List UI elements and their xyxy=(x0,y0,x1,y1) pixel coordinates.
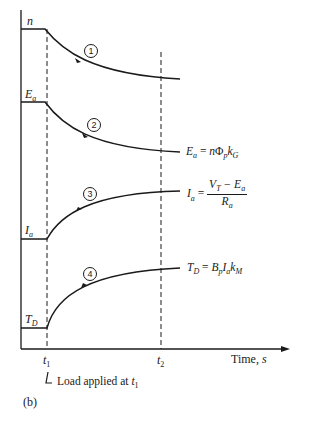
curve-n xyxy=(21,29,180,79)
label-ia: Ia xyxy=(25,224,33,239)
curve-ia xyxy=(21,191,180,239)
marker-3: 3 xyxy=(83,187,97,201)
equation-ea: Ea = nΦpkG xyxy=(186,146,238,160)
panel-label: (b) xyxy=(23,396,37,408)
tick-t1: t1 xyxy=(43,354,50,369)
x-axis-label: Time, s xyxy=(231,353,267,365)
label-n: n xyxy=(27,15,33,27)
marker-2: 2 xyxy=(87,118,101,132)
direction-arrow-icon xyxy=(75,58,81,63)
annotation-bracket xyxy=(46,372,52,383)
marker-4: 4 xyxy=(83,267,97,281)
label-ea: Ea xyxy=(25,88,36,103)
tick-t2: t2 xyxy=(157,354,164,369)
equation-td: TD = BpIakM xyxy=(187,262,242,276)
label-td: TD xyxy=(25,313,37,328)
marker-1: 1 xyxy=(84,44,98,58)
equation-ia: Ia = VT − EaRa xyxy=(187,179,247,211)
x-axis-arrow-icon xyxy=(281,346,290,352)
load-annotation: Load applied at t1 xyxy=(57,376,139,390)
curve-td xyxy=(21,268,180,328)
